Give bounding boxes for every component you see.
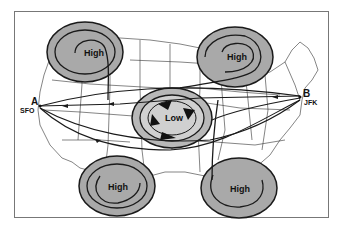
high-ne-label: High [227, 52, 247, 62]
point-a-code: SFO [20, 107, 34, 114]
low-center-label: Low [165, 113, 183, 123]
point-b-letter: B [303, 88, 310, 99]
high-se-label: High [230, 184, 250, 194]
high-nw-label: High [84, 48, 104, 58]
high-sw-label: High [108, 182, 128, 192]
high-pressure-nw [47, 22, 123, 100]
point-b-code: JFK [304, 99, 317, 106]
point-a-letter: A [31, 96, 38, 107]
